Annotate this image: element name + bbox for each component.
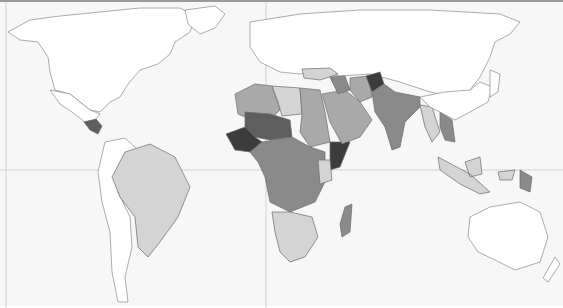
region-australia[interactable] bbox=[468, 202, 548, 270]
region-kenya[interactable] bbox=[318, 160, 332, 184]
region-japan[interactable] bbox=[490, 70, 500, 97]
choropleth-map bbox=[0, 2, 563, 308]
region-papua-new-guinea[interactable] bbox=[520, 170, 532, 192]
region-southern-africa[interactable] bbox=[272, 212, 318, 262]
region-north-america[interactable] bbox=[8, 8, 195, 112]
region-central-america[interactable] bbox=[84, 119, 102, 134]
region-madagascar[interactable] bbox=[340, 204, 352, 237]
region-somalia[interactable] bbox=[330, 142, 350, 170]
region-south-asia[interactable] bbox=[372, 84, 420, 150]
region-new-zealand[interactable] bbox=[543, 257, 560, 282]
region-indonesia[interactable] bbox=[438, 157, 515, 194]
region-central-africa[interactable] bbox=[250, 137, 325, 212]
region-iraq[interactable] bbox=[330, 76, 350, 94]
